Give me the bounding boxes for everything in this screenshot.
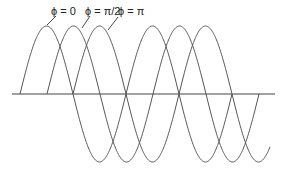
leader-phi-pi-2 <box>82 16 90 28</box>
leader-phi-0 <box>47 16 56 25</box>
phase-waves-diagram: ϕ = 0 ϕ = π/2 ϕ = π <box>0 0 283 175</box>
label-phi-0: ϕ = 0 <box>51 5 76 17</box>
label-phi-pi-2: ϕ = π/2 <box>85 5 120 17</box>
leader-phi-pi <box>108 17 118 30</box>
label-phi-pi: ϕ = π <box>118 5 145 17</box>
